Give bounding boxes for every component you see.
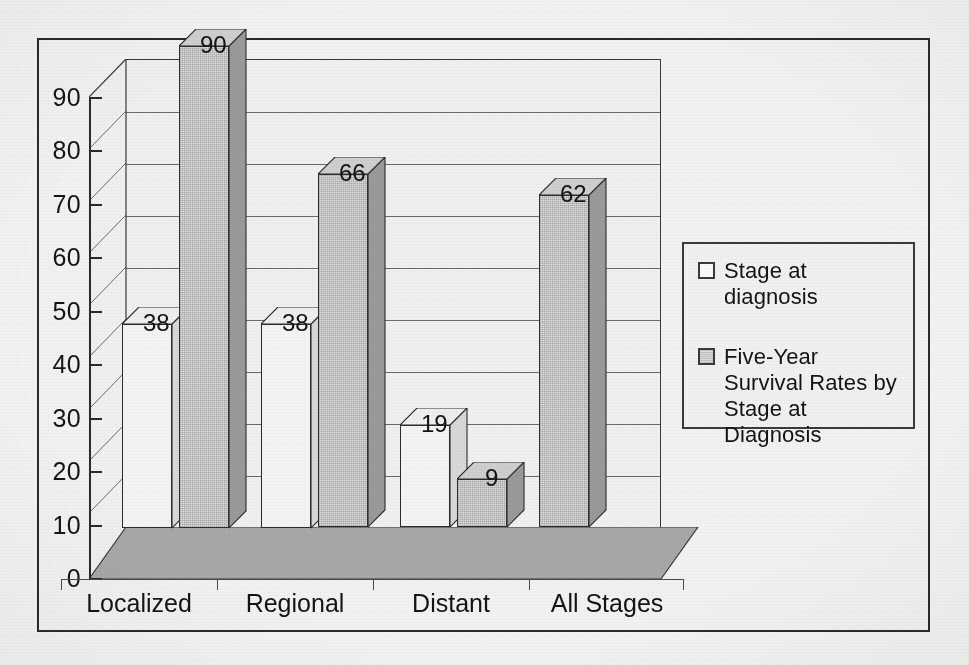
x-axis-label-all-stages: All Stages [529, 591, 685, 616]
bar-front-face [539, 195, 589, 527]
bar-regional-stage-at-diagnosis[interactable] [261, 324, 311, 528]
x-tick-1 [217, 579, 218, 590]
x-tick-4 [683, 579, 684, 590]
bar-localized-stage-at-diagnosis[interactable] [122, 324, 172, 528]
x-axis-label-localized: Localized [61, 591, 217, 616]
bar-regional-five-year-survival[interactable] [318, 174, 368, 527]
bar-label-localized-s1: 38 [143, 311, 170, 335]
bar-label-distant-s1: 19 [421, 412, 448, 436]
bar-front-face [318, 174, 368, 527]
legend-swatch-icon-series1 [698, 262, 715, 279]
y-tick-label-30: 30 [35, 406, 81, 431]
y-tick-mark-30 [91, 418, 102, 420]
bar-label-distant-s2: 9 [485, 466, 498, 490]
bar-label-allstages-s2: 62 [560, 182, 587, 206]
y-tick-mark-60 [91, 257, 102, 259]
legend-label-series1: Stage at diagnosis [724, 258, 903, 310]
bar-label-regional-s1: 38 [282, 311, 309, 335]
legend-label-series2: Five-Year Survival Rates by Stage at Dia… [724, 344, 903, 448]
bar-front-face [179, 46, 229, 528]
chart-frame: 90 80 70 60 50 40 30 20 10 0 38 [37, 38, 930, 632]
bar-side-face [229, 29, 247, 528]
bar-side-face [589, 178, 607, 527]
y-tick-label-60: 60 [35, 245, 81, 270]
chart-floor [89, 527, 698, 579]
x-tick-0 [61, 579, 62, 590]
y-tick-mark-90 [91, 97, 102, 99]
x-tick-3 [529, 579, 530, 590]
y-tick-label-90: 90 [35, 85, 81, 110]
y-tick-mark-80 [91, 150, 102, 152]
bar-front-face [400, 425, 450, 527]
bar-distant-five-year-survival[interactable] [457, 479, 507, 527]
bar-distant-stage-at-diagnosis[interactable] [400, 425, 450, 527]
y-tick-mark-10 [91, 525, 102, 527]
chart-depth-wall [89, 59, 126, 579]
x-axis-label-distant: Distant [373, 591, 529, 616]
y-tick-label-40: 40 [35, 352, 81, 377]
y-tick-mark-70 [91, 204, 102, 206]
bar-label-regional-s2: 66 [339, 161, 366, 185]
y-tick-label-70: 70 [35, 192, 81, 217]
chart-legend: Stage at diagnosis Five-Year Survival Ra… [682, 242, 915, 429]
bar-side-face [368, 157, 386, 527]
y-tick-label-20: 20 [35, 459, 81, 484]
y-tick-mark-50 [91, 311, 102, 313]
y-tick-label-80: 80 [35, 138, 81, 163]
y-tick-label-10: 10 [35, 513, 81, 538]
bar-localized-five-year-survival[interactable] [179, 46, 229, 528]
x-axis-label-regional: Regional [217, 591, 373, 616]
y-tick-mark-20 [91, 471, 102, 473]
bar-allstages-five-year-survival[interactable] [539, 195, 589, 527]
y-axis-line [89, 97, 91, 579]
y-tick-label-50: 50 [35, 299, 81, 324]
x-tick-2 [373, 579, 374, 590]
x-axis-line [61, 579, 683, 580]
bar-front-face [261, 324, 311, 528]
bar-front-face [122, 324, 172, 528]
legend-entry-stage-at-diagnosis[interactable]: Stage at diagnosis [698, 258, 903, 310]
legend-swatch-icon-series2 [698, 348, 715, 365]
bar-label-localized-s2: 90 [200, 33, 227, 57]
y-tick-mark-40 [91, 364, 102, 366]
bar-front-face [457, 479, 507, 527]
legend-entry-five-year-survival[interactable]: Five-Year Survival Rates by Stage at Dia… [698, 344, 903, 448]
